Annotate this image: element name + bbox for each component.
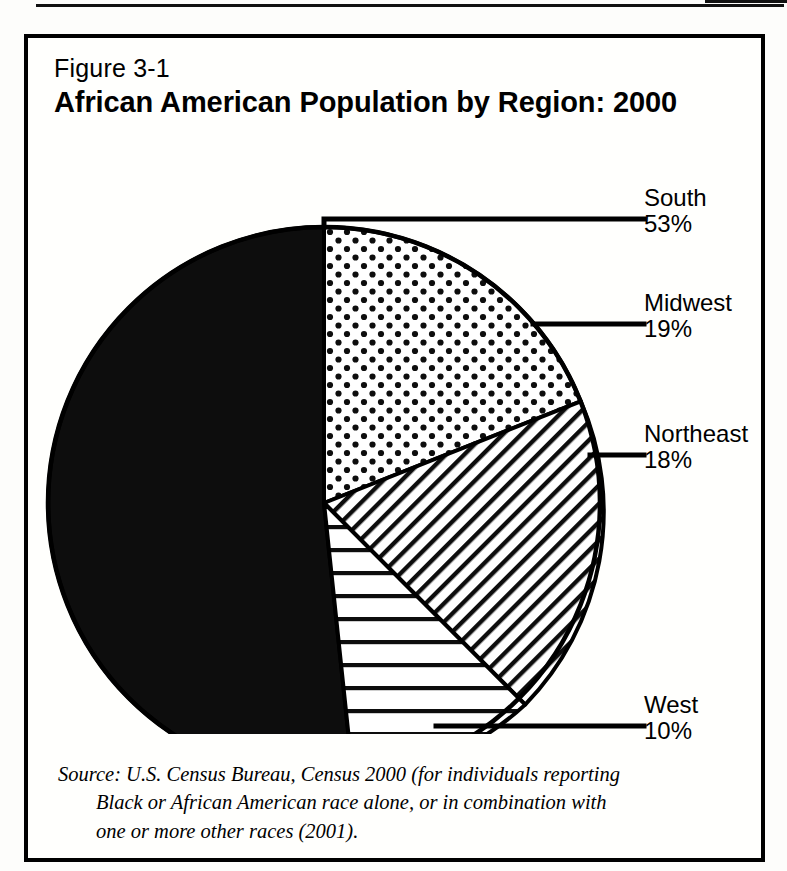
callout-midwest-name: Midwest <box>644 290 732 316</box>
callout-west: West 10% <box>644 692 698 744</box>
callout-northeast-value: 18% <box>644 447 748 473</box>
callout-midwest-value: 19% <box>644 316 732 342</box>
callout-south-name: South <box>644 185 707 211</box>
page-top-rule <box>36 4 784 7</box>
figure-box: Figure 3-1 African American Population b… <box>24 34 765 862</box>
source-note-line-2: Black or African American race alone, or… <box>58 788 734 816</box>
source-note-line-1: Source: U.S. Census Bureau, Census 2000 … <box>58 760 734 788</box>
callout-northeast-name: Northeast <box>644 421 748 447</box>
callout-west-name: West <box>644 692 698 718</box>
figure-number-label: Figure 3-1 <box>54 56 170 81</box>
callout-west-value: 10% <box>644 718 698 744</box>
callout-northeast: Northeast 18% <box>644 421 748 473</box>
callout-midwest: Midwest 19% <box>644 290 732 342</box>
page-top-rule-right <box>705 0 787 3</box>
callout-south-value: 53% <box>644 211 707 237</box>
figure-title: African American Population by Region: 2… <box>54 88 677 117</box>
callout-south: South 53% <box>644 185 707 237</box>
source-note-line-3: one or more other races (2001). <box>58 817 734 845</box>
figure-page: Figure 3-1 African American Population b… <box>0 0 787 871</box>
source-note: Source: U.S. Census Bureau, Census 2000 … <box>58 760 734 845</box>
leader-line-south <box>324 219 644 227</box>
